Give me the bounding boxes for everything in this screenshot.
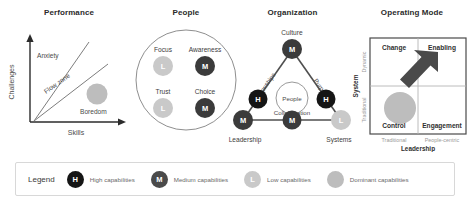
organization-edge-level-relationships: H [255, 95, 260, 104]
quadrant-label-control: Control [382, 122, 406, 129]
panel-people-title: People [134, 8, 238, 17]
dominant-capabilities-marker [87, 84, 108, 105]
zone-label-anxiety: Anxiety [37, 52, 59, 60]
panel-performance-title: Performance [4, 8, 134, 17]
operating-mode-x-axis-title: Leadership [401, 145, 435, 152]
infographic-canvas: Performance Challenges Skills Anxiety Fl… [0, 0, 474, 211]
operating-mode-matrix: Change Enabling Control Engagement Dynam… [352, 22, 472, 152]
legend-title: Legend [28, 175, 55, 184]
y-tick-label-dynamic: Dynamic [361, 51, 367, 72]
legend-label-dominant: Dominant capabilities [350, 176, 409, 183]
people-item-label-focus: Focus [154, 46, 173, 53]
operating-mode-y-axis-title: System [352, 74, 360, 97]
legend-badge-high: H [67, 171, 84, 188]
x-tick-label-people-centric: People-centric [425, 137, 460, 143]
panel-performance: Performance Challenges Skills Anxiety Fl… [4, 8, 134, 153]
panel-organization: Organization People Relationships Purpos… [225, 8, 360, 153]
panel-organization-title: Organization [225, 8, 360, 17]
people-circle-diagram: Focus L Awareness M Trust L Choice M [134, 22, 238, 150]
panel-operating-mode: Operating Mode Change Enabling Control E… [352, 8, 472, 153]
organization-vertex-level-culture: M [289, 45, 295, 54]
people-item-label-trust: Trust [156, 88, 171, 95]
organization-center-label: People [282, 95, 302, 102]
organization-vertex-label-leadership: Leadership [229, 136, 262, 144]
current-state-marker [384, 92, 416, 124]
legend-item-medium: M Medium capabilities [151, 171, 228, 188]
people-item-level-focus: L [161, 62, 166, 71]
quadrant-label-change: Change [382, 44, 407, 52]
zone-label-boredom: Boredom [80, 108, 107, 115]
people-item-level-trust: L [161, 104, 166, 113]
legend-item-high: H High capabilities [67, 171, 135, 188]
x-axis-arrowhead [118, 118, 126, 125]
people-item-label-choice: Choice [195, 88, 216, 95]
legend-label-medium: Medium capabilities [174, 176, 228, 183]
legend-label-low: Low capabilities [267, 176, 311, 183]
organization-vertex-level-systems: L [339, 116, 344, 125]
people-item-level-choice: M [202, 104, 208, 113]
organization-triangle-diagram: People Relationships Purpose Collaborati… [225, 22, 360, 152]
organization-vertex-label-systems: Systems [326, 136, 352, 144]
legend-badge-low: L [244, 171, 261, 188]
quadrant-label-enabling: Enabling [428, 44, 456, 52]
x-tick-label-traditional: Traditional [382, 137, 407, 143]
legend-label-high: High capabilities [90, 176, 135, 183]
panel-operating-mode-title: Operating Mode [352, 8, 472, 17]
performance-y-axis-label: Challenges [8, 64, 16, 100]
performance-x-axis-label: Skills [68, 129, 85, 136]
organization-edge-level-collaboration: M [289, 116, 295, 125]
legend-badge-letter-medium: M [156, 175, 162, 184]
y-axis-arrowhead [26, 34, 33, 42]
zone-label-flow-zone: Flow zone [43, 72, 72, 95]
legend-badge-medium: M [151, 171, 168, 188]
legend-badge-letter-low: L [250, 175, 255, 184]
y-tick-label-traditional: Traditional [361, 98, 367, 123]
panel-people: People Focus L Awareness M Trust L Choic… [134, 8, 238, 153]
legend: Legend H High capabilities M Medium capa… [15, 162, 455, 196]
organization-vertex-label-culture: Culture [281, 29, 303, 36]
people-item-label-awareness: Awareness [189, 46, 222, 53]
people-outer-circle [136, 30, 236, 130]
organization-vertex-level-leadership: M [240, 116, 246, 125]
people-item-level-awareness: M [202, 62, 208, 71]
legend-badge-letter-high: H [72, 175, 77, 184]
legend-item-low: L Low capabilities [244, 171, 311, 188]
performance-flow-chart: Challenges Skills Anxiety Flow zone Bore… [4, 22, 134, 150]
quadrant-label-engagement: Engagement [422, 122, 462, 130]
legend-item-dominant: Dominant capabilities [327, 171, 409, 188]
legend-badge-dominant [327, 171, 344, 188]
organization-edge-level-purpose: H [323, 95, 328, 104]
